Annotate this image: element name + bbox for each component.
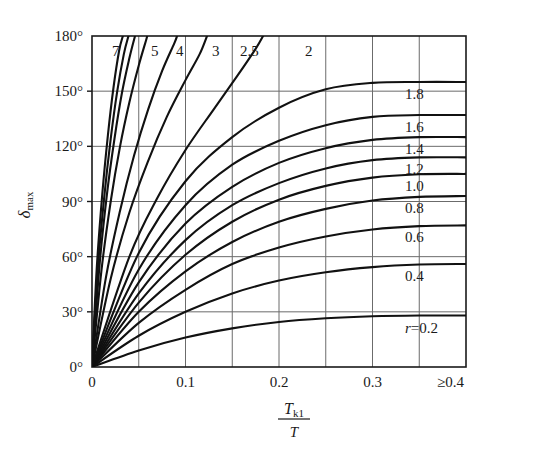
curve-label-1-8: 1.8 — [405, 86, 424, 102]
curve-top-label-5: 5 — [151, 43, 159, 59]
x-tick-label: 0.3 — [363, 374, 382, 390]
curve-top-label-3: 3 — [212, 43, 220, 59]
x-tick-label: 0.2 — [270, 374, 289, 390]
chart-container: 0°30°60°90°120°150°180° 00.10.20.3≥0.4 r… — [0, 0, 534, 453]
x-tick-label: 0 — [88, 374, 96, 390]
curve-label-0-8: 0.8 — [405, 200, 424, 216]
y-tick-label: 150° — [55, 83, 84, 99]
y-tick-label: 60° — [62, 249, 83, 265]
x-tick-label: ≥0.4 — [437, 374, 464, 390]
x-tick-label: 0.1 — [176, 374, 195, 390]
curve-top-label-2-5: 2.5 — [240, 43, 259, 59]
curve-top-label-7: 7 — [112, 43, 120, 59]
curve-top-label-2: 2 — [305, 43, 313, 59]
curve-label-1-4: 1.4 — [405, 141, 424, 157]
y-tick-label: 90° — [62, 194, 83, 210]
curve-label-0-6: 0.6 — [405, 229, 424, 245]
y-tick-label: 30° — [62, 304, 83, 320]
y-axis-title-subscript: max — [23, 191, 35, 210]
curve-label-1-0: 1.0 — [405, 178, 424, 194]
y-tick-label: 180° — [55, 28, 84, 44]
curve-label-r-0-2: r=0.2 — [405, 320, 438, 336]
curve-label-1-2: 1.2 — [405, 161, 424, 177]
curve-top-label-4: 4 — [176, 43, 184, 59]
curve-label-0-4: 0.4 — [405, 268, 424, 284]
delta-max-vs-tk1-over-t-chart: 0°30°60°90°120°150°180° 00.10.20.3≥0.4 r… — [0, 0, 534, 453]
curve-label-1-6: 1.6 — [405, 119, 424, 135]
y-tick-label: 0° — [70, 359, 84, 375]
y-tick-label: 120° — [55, 138, 84, 154]
